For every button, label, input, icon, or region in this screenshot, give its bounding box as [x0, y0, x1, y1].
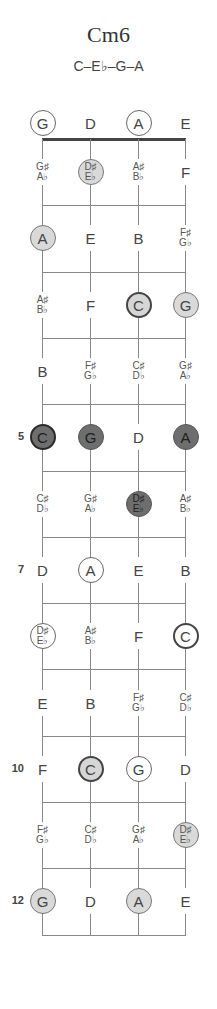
note-flat: D♭ [84, 835, 96, 845]
nut [42, 138, 186, 141]
note-marker: A [30, 225, 56, 251]
note-label: E [173, 888, 199, 914]
note-label: F♯G♭ [173, 225, 199, 251]
note-marker: G [78, 424, 104, 450]
note-label: D [173, 756, 199, 782]
note-marker: C [78, 756, 104, 782]
note-name: C [133, 298, 144, 313]
fret-line-8 [42, 669, 186, 670]
note-name: B [133, 231, 143, 246]
note-flat: D♭ [132, 371, 144, 381]
note-marker: A [173, 424, 199, 450]
note-name: E [180, 116, 190, 131]
note-label: E [126, 557, 152, 583]
note-label: D [126, 424, 152, 450]
note-label: C♯D♭ [78, 822, 104, 848]
note-label: C♯D♭ [173, 690, 199, 716]
fret-line-3 [42, 338, 186, 339]
note-flat: G♭ [84, 371, 97, 381]
note-name: D [37, 563, 48, 578]
note-name: C [180, 629, 191, 644]
note-name: G [133, 762, 145, 777]
note-label: F [78, 292, 104, 318]
note-flat: E♭ [37, 636, 49, 646]
note-label: E [78, 225, 104, 251]
fret-line-6 [42, 537, 186, 538]
note-flat: A♭ [180, 371, 192, 381]
note-flat: B♭ [133, 172, 145, 182]
note-label: F♯G♭ [78, 358, 104, 384]
note-name: B [85, 696, 95, 711]
note-label: G♯A♭ [78, 491, 104, 517]
note-label: D [78, 888, 104, 914]
note-label: F [173, 159, 199, 185]
note-marker: C [30, 424, 56, 450]
note-label: D [30, 557, 56, 583]
note-label: B [78, 690, 104, 716]
note-flat: E♭ [133, 504, 145, 514]
fretboard-diagram: GDAEG♯A♭D♯E♭A♯B♭FAEBF♯G♭A♯B♭FCGBF♯G♭C♯D♭… [0, 0, 217, 1009]
note-label: E [173, 110, 199, 136]
note-name: F [134, 629, 143, 644]
note-flat: G♭ [36, 835, 49, 845]
note-name: A [133, 116, 143, 131]
note-name: F [86, 298, 95, 313]
note-label: D [78, 110, 104, 136]
fret-line-12 [42, 935, 186, 936]
note-flat: G♭ [179, 238, 192, 248]
note-label: B [173, 557, 199, 583]
note-label: G♯A♭ [30, 159, 56, 185]
note-flat: B♭ [85, 636, 97, 646]
note-label: F [30, 756, 56, 782]
note-flat: D♭ [179, 703, 191, 713]
note-name: A [37, 231, 47, 246]
note-name: B [180, 563, 190, 578]
fret-line-4 [42, 404, 186, 405]
note-name: E [133, 563, 143, 578]
note-marker: D♯E♭ [78, 159, 104, 185]
note-name: D [180, 762, 191, 777]
note-flat: E♭ [85, 172, 97, 182]
note-flat: D♭ [36, 504, 48, 514]
note-marker: G [30, 110, 56, 136]
note-marker: D♯E♭ [126, 491, 152, 517]
note-name: B [37, 364, 47, 379]
fret-number: 10 [0, 762, 24, 774]
note-label: A♯B♭ [78, 623, 104, 649]
note-name: G [85, 430, 97, 445]
note-flat: E♭ [180, 835, 192, 845]
note-name: F [38, 762, 47, 777]
note-name: E [37, 696, 47, 711]
note-name: G [37, 894, 49, 909]
note-label: A♯B♭ [30, 292, 56, 318]
note-flat: B♭ [180, 504, 192, 514]
note-flat: A♭ [37, 172, 49, 182]
note-flat: B♭ [37, 305, 49, 315]
note-name: D [85, 894, 96, 909]
note-marker: G [126, 756, 152, 782]
note-name: F [181, 165, 190, 180]
note-name: A [85, 563, 95, 578]
note-name: C [85, 762, 96, 777]
fret-line-5 [42, 471, 186, 472]
fret-line-7 [42, 603, 186, 604]
fret-number: 7 [0, 563, 24, 575]
note-name: A [133, 894, 143, 909]
note-marker: D♯E♭ [30, 623, 56, 649]
note-label: B [30, 358, 56, 384]
note-marker: A [78, 557, 104, 583]
note-name: D [133, 430, 144, 445]
fret-line-10 [42, 802, 186, 803]
note-label: B [126, 225, 152, 251]
fret-line-1 [42, 205, 186, 206]
note-marker: G [30, 888, 56, 914]
note-label: E [30, 690, 56, 716]
note-name: G [180, 298, 192, 313]
note-name: D [85, 116, 96, 131]
note-label: F♯G♭ [30, 822, 56, 848]
note-marker: G [173, 292, 199, 318]
note-label: F♯G♭ [126, 690, 152, 716]
note-label: C♯D♭ [126, 358, 152, 384]
note-flat: A♭ [85, 504, 97, 514]
note-label: G♯A♭ [126, 822, 152, 848]
